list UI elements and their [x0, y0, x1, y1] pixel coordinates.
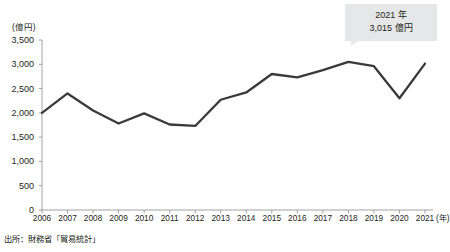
callout-line-1: 2021 年 — [345, 9, 437, 22]
source-note: 出所：財務省「貿易統計」 — [4, 232, 100, 244]
chart-series-line — [42, 62, 425, 126]
annotation-callout-2021: 2021 年 3,015 億円 — [345, 4, 437, 41]
callout-tail-icon — [351, 38, 362, 46]
series-line-path — [42, 62, 425, 126]
callout-line-2: 3,015 億円 — [345, 22, 437, 35]
